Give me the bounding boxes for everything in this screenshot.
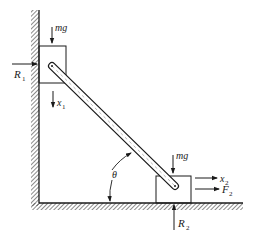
mg-label-bottom: mg xyxy=(176,150,188,161)
R1-label: R xyxy=(13,68,21,80)
theta-label: θ xyxy=(112,169,117,180)
R1-subscript: 1 xyxy=(22,75,26,83)
vertical-wall xyxy=(31,10,39,206)
displacement-x1: x 1 xyxy=(53,91,66,111)
angle-theta: θ xyxy=(110,153,131,201)
force-F2: F 2 xyxy=(195,183,233,198)
floor xyxy=(31,203,243,210)
F2-subscript: 2 xyxy=(229,190,233,198)
R2-subscript: 2 xyxy=(186,224,190,232)
F2-label: F xyxy=(221,183,229,195)
x1-subscript: 1 xyxy=(62,103,66,111)
pivot-top xyxy=(51,65,53,67)
force-mg-1: mg xyxy=(52,22,67,43)
mechanism-diagram: mg R 1 x 1 mg x 2 F 2 R 2 θ xyxy=(0,0,255,243)
mg-label-top: mg xyxy=(55,22,67,33)
pivot-bottom xyxy=(174,185,176,187)
force-mg-2: mg xyxy=(173,150,188,173)
R2-label: R xyxy=(177,217,185,229)
